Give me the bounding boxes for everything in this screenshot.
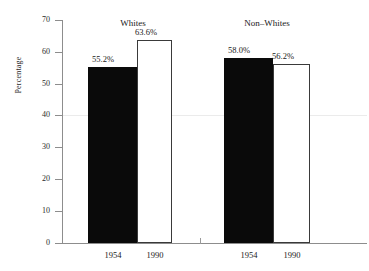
y-tick-label-40: 40 (24, 111, 50, 119)
bar-non-whites-1954[interactable] (224, 58, 273, 243)
y-tick-40 (55, 115, 62, 116)
y-axis-title: Percentage (14, 30, 23, 120)
y-tick-20 (55, 179, 62, 180)
bar-value-whites-1990: 63.6% (135, 28, 157, 37)
group-separator-tick (200, 238, 201, 244)
y-tick-label-50: 50 (24, 80, 50, 88)
y-tick-60 (55, 52, 62, 53)
bar-whites-1954[interactable] (88, 67, 137, 243)
y-tick-70 (55, 20, 62, 21)
bar-non-whites-1990[interactable] (273, 64, 310, 243)
group-title-whites: Whites (93, 19, 173, 28)
x-axis-line (62, 243, 367, 244)
x-tick-label-whites-1954: 1954 (92, 251, 134, 260)
y-axis-line (62, 20, 63, 244)
x-tick-label-whites-1990: 1990 (135, 251, 175, 260)
y-tick-50 (55, 84, 62, 85)
y-tick-label-30: 30 (24, 143, 50, 151)
bar-value-non-whites-1990: 56.2% (272, 52, 294, 61)
group-title-non-whites: Non–Whites (224, 19, 310, 28)
y-tick-label-20: 20 (24, 175, 50, 183)
bar-chart: Percentage 70 60 50 40 30 20 10 0 Whites… (0, 0, 369, 271)
bar-value-non-whites-1954: 58.0% (228, 46, 250, 55)
y-tick-label-60: 60 (24, 48, 50, 56)
y-tick-0 (55, 243, 62, 244)
y-tick-label-0: 0 (24, 239, 50, 247)
x-tick-label-non-whites-1954: 1954 (228, 251, 270, 260)
y-tick-label-70: 70 (24, 16, 50, 24)
bar-value-whites-1954: 55.2% (92, 55, 114, 64)
y-tick-30 (55, 147, 62, 148)
bar-whites-1990[interactable] (137, 40, 172, 243)
y-tick-10 (55, 211, 62, 212)
x-tick-label-non-whites-1990: 1990 (272, 251, 312, 260)
y-tick-label-10: 10 (24, 207, 50, 215)
